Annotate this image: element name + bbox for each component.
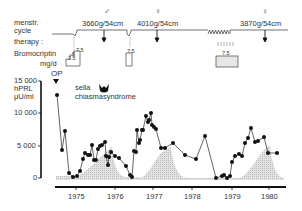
pregnancy-range-bands [56, 145, 284, 180]
chart-graphics [0, 0, 302, 211]
op-marker-icon [53, 79, 59, 84]
therapy-dose-boxes [66, 51, 238, 67]
sella-icon [99, 84, 109, 93]
cycle-timeline [52, 30, 288, 36]
